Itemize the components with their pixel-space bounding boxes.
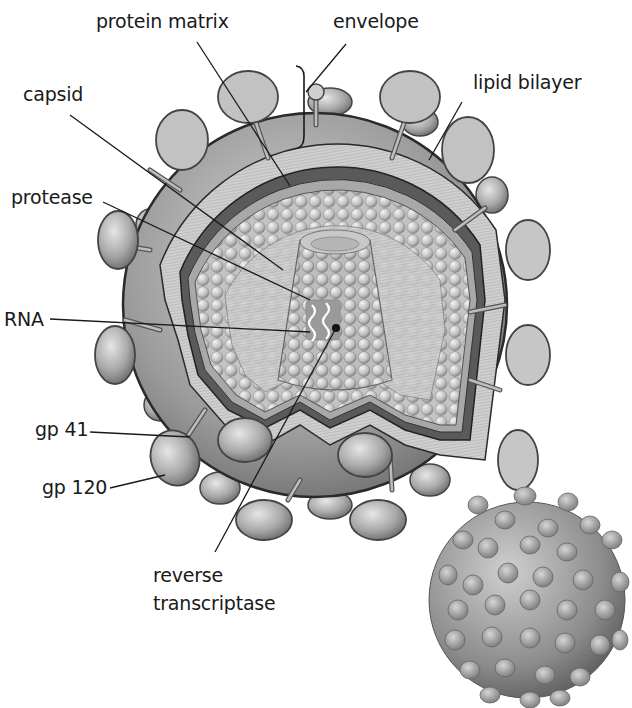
main-virion <box>95 71 550 540</box>
label-envelope: envelope <box>333 11 419 32</box>
virus-illustration <box>0 0 632 708</box>
label-reverse-transcriptase-line1: reverse <box>153 565 223 586</box>
leader-gp120 <box>110 475 165 488</box>
label-rna: RNA <box>4 309 44 330</box>
whole-virion-inset <box>429 487 629 708</box>
label-lipid-bilayer: lipid bilayer <box>473 72 581 93</box>
label-reverse-transcriptase-line2: transcriptase <box>153 593 276 614</box>
label-gp120: gp 120 <box>42 477 107 498</box>
label-capsid: capsid <box>23 84 83 105</box>
label-gp41: gp 41 <box>35 419 88 440</box>
hiv-diagram: protein matrix envelope capsid lipid bil… <box>0 0 632 708</box>
leader-envelope <box>306 44 346 92</box>
label-protein-matrix: protein matrix <box>96 11 229 32</box>
label-protease: protease <box>11 187 93 208</box>
